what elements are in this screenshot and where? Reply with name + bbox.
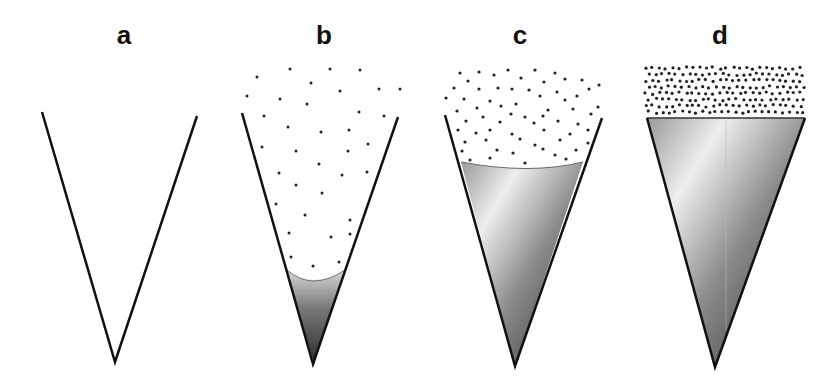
cone-a	[42, 112, 197, 362]
cone-c	[444, 68, 602, 366]
cone-d	[643, 65, 805, 367]
cone-diagram	[0, 0, 840, 386]
particles-b	[246, 68, 402, 268]
cone-b	[242, 68, 402, 365]
particles-d	[643, 65, 805, 115]
particles-c	[444, 68, 600, 164]
